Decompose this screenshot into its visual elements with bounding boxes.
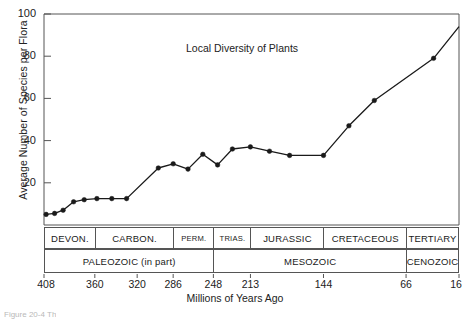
x-tick-label: 66 bbox=[386, 278, 426, 290]
chart-title: Local Diversity of Plants bbox=[186, 42, 298, 54]
data-point-marker bbox=[230, 147, 235, 152]
timescale-period-cell: TERTIARY bbox=[406, 227, 459, 249]
data-point-marker bbox=[171, 162, 176, 167]
data-point-marker bbox=[215, 163, 220, 168]
data-point-marker bbox=[61, 208, 66, 213]
x-tick-label: 360 bbox=[75, 278, 115, 290]
data-point-marker bbox=[71, 200, 76, 205]
x-tick-label: 248 bbox=[193, 278, 233, 290]
figure-caption: Figure 20-4 Th bbox=[4, 310, 56, 319]
y-tick-label: 100 bbox=[10, 7, 36, 19]
y-axis-label: Average Number of Species per Flora bbox=[17, 0, 29, 225]
timescale-period-cell: PERM. bbox=[173, 227, 213, 249]
data-point-marker bbox=[110, 196, 115, 201]
data-point-marker bbox=[431, 56, 436, 61]
x-tick-label: 286 bbox=[153, 278, 193, 290]
data-point-marker bbox=[248, 145, 253, 150]
data-point-marker bbox=[372, 98, 377, 103]
data-point-marker bbox=[156, 166, 161, 171]
x-tick-label: 213 bbox=[230, 278, 270, 290]
data-point-marker bbox=[52, 211, 57, 216]
timescale-period-cell: CARBON. bbox=[95, 227, 173, 249]
data-point-marker bbox=[347, 124, 352, 129]
x-tick-label: 144 bbox=[303, 278, 343, 290]
x-axis-label: Millions of Years Ago bbox=[0, 292, 470, 304]
x-tick-label: 320 bbox=[117, 278, 157, 290]
data-point-marker bbox=[201, 152, 206, 157]
data-point-marker bbox=[95, 196, 100, 201]
data-point-marker bbox=[82, 197, 87, 202]
timescale-period-cell: CRETACEOUS bbox=[323, 227, 406, 249]
x-tick-label: 408 bbox=[26, 278, 66, 290]
timescale-era-cell: PALEOZOIC (in part) bbox=[44, 249, 213, 273]
data-point-marker bbox=[267, 149, 272, 154]
timescale-era-cell: MESOZOIC bbox=[213, 249, 406, 273]
timescale-period-cell: JURASSIC bbox=[250, 227, 323, 249]
data-line bbox=[46, 27, 459, 215]
data-point-marker bbox=[287, 153, 292, 158]
data-point-marker bbox=[124, 196, 129, 201]
data-point-marker bbox=[321, 153, 326, 158]
y-tick-label: 40 bbox=[10, 134, 36, 146]
data-point-marker bbox=[44, 212, 49, 217]
y-tick-label: 60 bbox=[10, 91, 36, 103]
data-point-marker bbox=[186, 167, 191, 172]
figure-container: Average Number of Species per Flora 2040… bbox=[0, 0, 470, 319]
y-tick-label: 80 bbox=[10, 49, 36, 61]
timescale-period-cell: TRIAS. bbox=[213, 227, 250, 249]
x-tick-label: 16 bbox=[436, 278, 470, 290]
y-tick-label: 20 bbox=[10, 176, 36, 188]
timescale-period-cell: DEVON. bbox=[44, 227, 95, 249]
timescale-era-cell: CENOZOIC bbox=[406, 249, 459, 273]
